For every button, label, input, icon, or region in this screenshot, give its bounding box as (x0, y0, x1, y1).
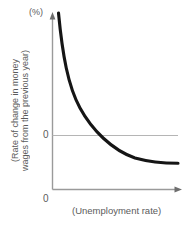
y-axis-unit-label: (%) (29, 8, 43, 17)
phillips-curve-line (59, 13, 179, 163)
phillips-curve-chart: (%) 0 0 (Unemployment rate) (Rate of cha… (0, 0, 190, 231)
x-axis-arrow-icon (175, 187, 183, 193)
y-axis-title: (Rate of change in money wages from the … (10, 34, 30, 186)
y-axis-arrow-icon (50, 12, 56, 20)
x-axis-title: (Unemployment rate) (72, 206, 161, 216)
y-axis-title-line-2: wages from the previous year) (20, 34, 30, 186)
origin-label: 0 (43, 194, 49, 204)
y-axis-title-line-1: (Rate of change in money (10, 34, 20, 186)
y-axis-zero-label: 0 (43, 130, 49, 140)
